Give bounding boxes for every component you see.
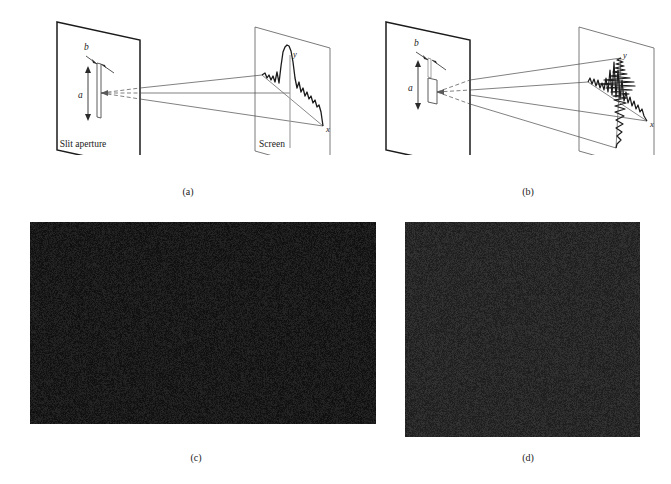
intensity-trace-a: [262, 45, 323, 126]
rectangular-aperture-schematic: y x b a: [336, 0, 671, 155]
slit-diffraction-photo: [30, 222, 376, 424]
aperture-label-a: Slit aperture: [38, 139, 128, 150]
dimension-a-arrow-bottom-b: [415, 103, 421, 110]
ray-arrowhead-b: [437, 89, 444, 95]
dimension-b-arrow-left-a: [92, 59, 97, 64]
rectangular-diffraction-photo: [405, 222, 640, 437]
ray-to-screen-upper-b: [470, 58, 621, 80]
slit-opening-a: [97, 63, 101, 118]
screen-x-axis-label-a: x: [325, 124, 330, 134]
caption-b: (b): [508, 186, 548, 197]
dimension-a-label-b: a: [408, 83, 413, 93]
screen-label-a: Screen: [237, 139, 307, 150]
dimension-b-arrow-left-b: [423, 55, 428, 60]
dimension-a-label-a: a: [78, 90, 83, 100]
caption-a: (a): [168, 186, 208, 197]
diffraction-figure: y x b a Slit aperture Screen: [0, 0, 671, 484]
panel-b-rectangular-diagram: y x b a Rectangular aperture Screen: [336, 0, 671, 155]
dimension-a-arrow-top-a: [85, 66, 91, 73]
ray-to-screen-vertical-b: [470, 104, 616, 148]
panel-a-slit-diagram: y x b a Slit aperture Screen: [0, 0, 340, 155]
ray-arrowhead-a: [101, 90, 108, 96]
slit-aperture-schematic: y x b a: [0, 0, 340, 155]
caption-d: (d): [508, 452, 548, 463]
ray-to-screen-upper-a: [140, 75, 262, 88]
panel-d-photograph: [405, 222, 640, 437]
screen-plane-a: [255, 27, 330, 155]
panel-c-photograph: [30, 222, 376, 424]
screen-y-axis-label-b: y: [622, 50, 627, 60]
rectangular-opening-b: [428, 78, 437, 104]
screen-x-axis-label-b: x: [649, 119, 654, 129]
dimension-b-label-a: b: [84, 42, 89, 52]
ray-to-screen-middle-b: [470, 82, 588, 90]
dimension-a-arrow-top-b: [415, 60, 421, 67]
aperture-guide-b: [428, 58, 431, 78]
caption-c: (c): [176, 452, 216, 463]
dimension-a-arrow-bottom-a: [85, 114, 91, 121]
dimension-b-label-b: b: [414, 38, 419, 48]
